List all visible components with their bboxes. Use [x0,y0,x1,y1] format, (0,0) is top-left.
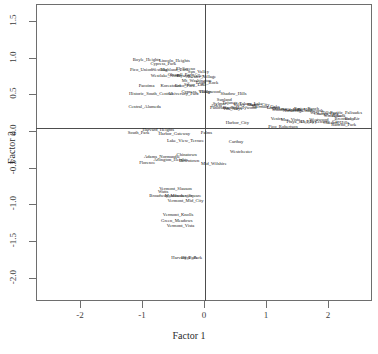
data-point-label: South_Park [128,130,149,135]
data-point-label: Eagle_Rock [196,80,218,85]
data-point-label: Vermont_Vista [167,222,195,227]
data-point-label: Pico_Union [130,67,152,72]
data-point-label: Harbor_Gateway [159,131,191,136]
data-point-label: Lake_View_Terrace [167,137,204,142]
data-points-layer: Boyle_HeightsCypress_ParkLincoln_Heights… [0,0,378,354]
data-point-label: Pacific_Palisades [330,109,362,114]
data-point-label: Rancho_Park [331,121,356,126]
data-point-label: Pico_Robertson [268,124,297,129]
data-point-label: Lincoln_Heights [159,58,190,63]
data-point-label: Palms [201,130,212,135]
data-point-label: Vermont_Knolls [163,212,193,217]
data-point-label: Mid_Wilshire [201,161,227,166]
y-axis-title: Factor 2 [6,108,17,188]
data-point-label: Shadow_Hills [221,90,247,95]
data-point-label: Pacoima [139,83,155,88]
data-point-label: Hyde_Park [181,255,202,260]
x-axis-title: Factor 1 [0,330,378,341]
data-point-label: Florence [139,159,155,164]
data-point-label: Historic_South_Central [129,90,173,95]
data-point-label: Westchester [230,149,252,154]
data-point-label: Vermont_Mid_City [167,197,203,202]
data-point-label: Hollywood [200,88,221,93]
data-point-label: Carthay [229,139,244,144]
factor-analysis-biplot: 1.51.00.50.0-0.5-1.0-1.5-2.0-2-1012 Boyl… [0,0,378,354]
data-point-label: Central_Alameda [129,103,161,108]
data-point-label: Harbor_City [226,120,249,125]
data-point-label: Downtown [179,158,199,163]
